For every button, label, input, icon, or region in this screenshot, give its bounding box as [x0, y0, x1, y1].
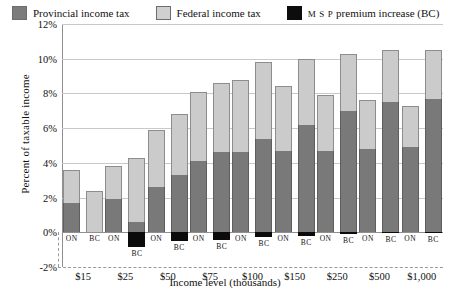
bar-on[interactable]: ON — [317, 24, 334, 267]
bar-tick-label-on: ON — [275, 234, 292, 243]
bar-bc[interactable]: BC — [298, 24, 315, 267]
bar-on[interactable]: ON — [402, 24, 419, 267]
bar-segment-federal[interactable] — [232, 80, 249, 153]
bar-segment-federal[interactable] — [255, 62, 272, 138]
bar-on[interactable]: ON — [63, 24, 80, 267]
bar-tick-label-bc: BC — [425, 235, 442, 244]
bar-tick-label-bc: BC — [340, 236, 357, 245]
bar-bc[interactable]: BC — [213, 24, 230, 267]
chart-container: Percent of taxable income -2%0%2%4%6%8%1… — [0, 0, 450, 294]
bar-segment-provincial[interactable] — [190, 161, 207, 232]
bar-groups: ONBC$15ONBC$25ONBC$50ONBC$75ONBC$100ONBC… — [62, 24, 443, 267]
bar-segment-federal[interactable] — [190, 92, 207, 161]
bar-segment-federal[interactable] — [340, 54, 357, 111]
bar-group: ONBC$1,000 — [401, 24, 443, 267]
bar-on[interactable]: ON — [275, 24, 292, 267]
legend-swatch-provincial-icon — [12, 6, 27, 20]
bar-segment-provincial[interactable] — [63, 203, 80, 233]
bar-group: ONBC$75 — [189, 24, 231, 267]
bar-segment-msp[interactable] — [255, 232, 272, 236]
bar-tick-label-on: ON — [359, 234, 376, 243]
bar-segment-provincial[interactable] — [255, 139, 272, 233]
bar-segment-msp[interactable] — [128, 232, 145, 247]
legend-item-provincial: Provincial income tax — [12, 6, 130, 20]
bar-group: ONBC$250 — [316, 24, 358, 267]
bar-segment-federal[interactable] — [128, 158, 145, 222]
bar-segment-provincial[interactable] — [171, 175, 188, 232]
bar-segment-provincial[interactable] — [340, 111, 357, 233]
bar-on[interactable]: ON — [359, 24, 376, 267]
bar-segment-federal[interactable] — [148, 130, 165, 187]
bar-tick-label-bc: BC — [298, 238, 315, 247]
bar-segment-federal[interactable] — [317, 95, 334, 151]
bar-segment-msp[interactable] — [213, 232, 230, 240]
bar-tick-label-bc: BC — [86, 234, 103, 243]
y-axis-tick-label: 0% — [43, 227, 57, 238]
bar-segment-provincial[interactable] — [275, 151, 292, 233]
bar-segment-provincial[interactable] — [128, 222, 145, 232]
bar-segment-federal[interactable] — [359, 100, 376, 149]
bar-segment-provincial[interactable] — [402, 147, 419, 232]
bar-on[interactable]: ON — [190, 24, 207, 267]
legend-item-federal: Federal income tax — [156, 6, 261, 20]
bar-segment-provincial[interactable] — [298, 125, 315, 233]
y-axis-tick-label: 4% — [43, 157, 57, 168]
bar-segment-msp[interactable] — [340, 232, 357, 234]
bar-segment-provincial[interactable] — [148, 187, 165, 232]
bar-on[interactable]: ON — [148, 24, 165, 267]
bar-tick-label-bc: BC — [171, 243, 188, 252]
bar-segment-federal[interactable] — [382, 50, 399, 102]
bar-segment-msp[interactable] — [382, 232, 399, 233]
bar-segment-msp[interactable] — [298, 232, 315, 235]
x-axis-title: Income level (thousands) — [0, 276, 450, 288]
bar-bc[interactable]: BC — [171, 24, 188, 267]
y-axis-title: Percent of taxable income — [19, 49, 31, 219]
bar-on[interactable]: ON — [105, 24, 122, 267]
bar-group: ONBC$25 — [104, 24, 146, 267]
bar-group: ONBC$15 — [62, 24, 104, 267]
bar-tick-label-on: ON — [402, 234, 419, 243]
bar-group: ONBC$150 — [274, 24, 316, 267]
bar-tick-label-on: ON — [63, 234, 80, 243]
bar-segment-federal[interactable] — [171, 114, 188, 175]
bar-segment-provincial[interactable] — [425, 99, 442, 233]
bar-tick-label-on: ON — [105, 234, 122, 243]
bar-tick-label-on: ON — [148, 234, 165, 243]
legend-swatch-msp-icon — [287, 6, 302, 20]
bar-segment-federal[interactable] — [298, 59, 315, 125]
bar-tick-label-bc: BC — [382, 235, 399, 244]
bar-segment-federal[interactable] — [105, 166, 122, 199]
bar-segment-federal[interactable] — [63, 170, 80, 203]
bar-segment-msp[interactable] — [425, 232, 442, 233]
y-axis-tick-label: 12% — [38, 19, 57, 30]
bar-segment-federal[interactable] — [275, 86, 292, 150]
bar-segment-provincial[interactable] — [213, 152, 230, 232]
bar-segment-provincial[interactable] — [382, 102, 399, 232]
bar-bc[interactable]: BC — [86, 24, 103, 267]
y-axis-tick-label: -2% — [40, 262, 58, 273]
gridline-dashed-left — [58, 232, 59, 267]
bar-group: ONBC$500 — [358, 24, 400, 267]
bar-segment-federal[interactable] — [425, 50, 442, 99]
legend-swatch-federal-icon — [156, 6, 171, 20]
bar-segment-provincial[interactable] — [105, 199, 122, 232]
bar-tick-label-bc: BC — [255, 239, 272, 248]
legend-label-federal: Federal income tax — [177, 7, 261, 19]
bar-segment-provincial[interactable] — [317, 151, 334, 233]
chart-legend: Provincial income tax Federal income tax… — [12, 6, 439, 20]
bar-bc[interactable]: BC — [128, 24, 145, 267]
bar-segment-federal[interactable] — [86, 191, 103, 233]
bar-segment-federal[interactable] — [213, 83, 230, 152]
bar-segment-federal[interactable] — [402, 106, 419, 148]
bar-on[interactable]: ON — [232, 24, 249, 267]
bar-segment-provincial[interactable] — [232, 152, 249, 232]
bar-bc[interactable]: BC — [255, 24, 272, 267]
bar-bc[interactable]: BC — [382, 24, 399, 267]
bar-segment-provincial[interactable] — [359, 149, 376, 232]
bar-tick-label-on: ON — [317, 234, 334, 243]
bar-bc[interactable]: BC — [340, 24, 357, 267]
bar-segment-msp[interactable] — [171, 232, 188, 241]
bar-tick-label-on: ON — [190, 234, 207, 243]
bar-group: ONBC$100 — [231, 24, 273, 267]
bar-bc[interactable]: BC — [425, 24, 442, 267]
